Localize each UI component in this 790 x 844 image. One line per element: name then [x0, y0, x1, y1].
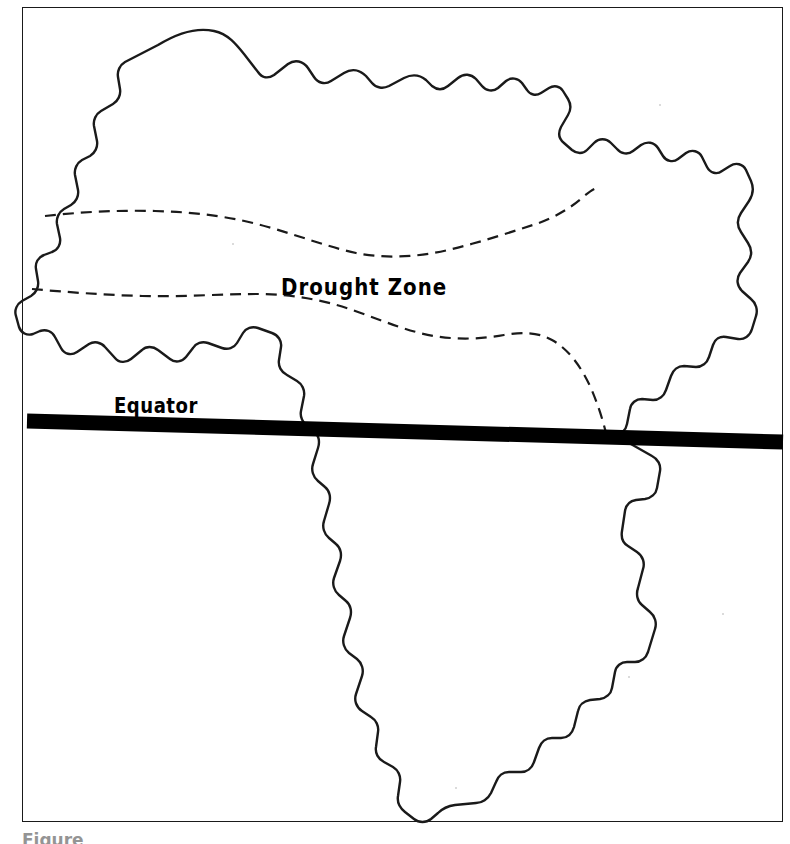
equator-line [27, 421, 783, 442]
scan-speck [722, 613, 724, 615]
drought-zone-label: Drought Zone [281, 274, 447, 300]
figure-page: Drought Zone Equator Figure [0, 0, 790, 844]
scan-speck [628, 676, 630, 678]
scan-speck [232, 243, 234, 245]
africa-map [0, 0, 790, 844]
figure-caption: Figure [22, 831, 762, 844]
equator-label: Equator [114, 394, 198, 418]
drought-zone-north-boundary [45, 188, 597, 257]
scan-speck [659, 104, 661, 106]
scan-speck [455, 787, 457, 789]
